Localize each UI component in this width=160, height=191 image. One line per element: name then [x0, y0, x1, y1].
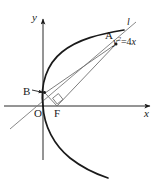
point-label-F: F — [54, 108, 60, 119]
point-marker-B — [43, 91, 46, 94]
chord-AB — [45, 44, 116, 93]
point-label-B: B — [23, 86, 30, 97]
y-axis-label: y — [32, 12, 37, 23]
parabola-upper-branch — [42, 30, 124, 106]
point-label-A: A — [105, 30, 113, 41]
origin-label-O: O — [34, 108, 42, 119]
chord-AF — [57, 44, 116, 106]
parabola-equation-label: y2=4x — [113, 36, 136, 47]
b-pointer-arrow — [32, 90, 43, 93]
geometry-figure: A B O F x y l y2=4x — [0, 0, 160, 191]
tangent-line-label: l — [127, 17, 130, 27]
equation-rest-var: x — [132, 36, 136, 47]
equation-rest-prefix: =4 — [121, 36, 132, 47]
x-axis-label: x — [144, 108, 149, 119]
segment-BF — [45, 93, 57, 106]
parabola-lower-branch — [43, 106, 108, 178]
